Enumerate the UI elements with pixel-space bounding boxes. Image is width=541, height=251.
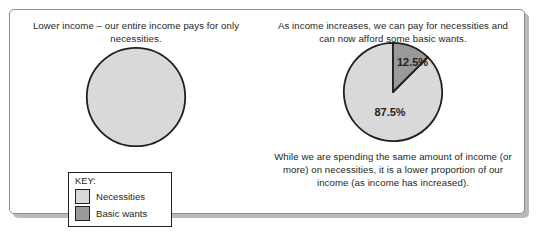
right-panel: As income increases, we can pay for nece… bbox=[262, 10, 524, 213]
legend-swatch-necessities bbox=[75, 189, 90, 204]
legend-item-basic-wants: Basic wants bbox=[75, 206, 165, 221]
lower-income-pie-chart bbox=[85, 46, 187, 148]
higher-income-pie-chart: 12.5% 87.5% bbox=[342, 41, 444, 143]
key-legend: KEY: Necessities Basic wants bbox=[68, 172, 172, 227]
left-panel: Lower income – our entire income pays fo… bbox=[10, 10, 262, 213]
right-panel-footnote: While we are spending the same amount of… bbox=[274, 150, 512, 190]
pie-label-basic-wants: 12.5% bbox=[397, 56, 428, 68]
legend-label-basic-wants: Basic wants bbox=[96, 208, 147, 219]
legend-item-necessities: Necessities bbox=[75, 189, 165, 204]
higher-income-pie-svg: 12.5% 87.5% bbox=[342, 41, 444, 143]
left-panel-caption: Lower income – our entire income pays fo… bbox=[29, 19, 243, 45]
key-title: KEY: bbox=[75, 176, 165, 187]
card-inner: Lower income – our entire income pays fo… bbox=[10, 10, 524, 213]
figure-card: Lower income – our entire income pays fo… bbox=[9, 9, 525, 214]
lower-income-pie-svg bbox=[85, 46, 187, 148]
legend-label-necessities: Necessities bbox=[96, 191, 145, 202]
pie-label-necessities: 87.5% bbox=[374, 106, 405, 118]
figure-root: Lower income – our entire income pays fo… bbox=[0, 0, 541, 251]
pie-slice-necessities bbox=[87, 48, 185, 146]
legend-swatch-basic-wants bbox=[75, 206, 90, 221]
